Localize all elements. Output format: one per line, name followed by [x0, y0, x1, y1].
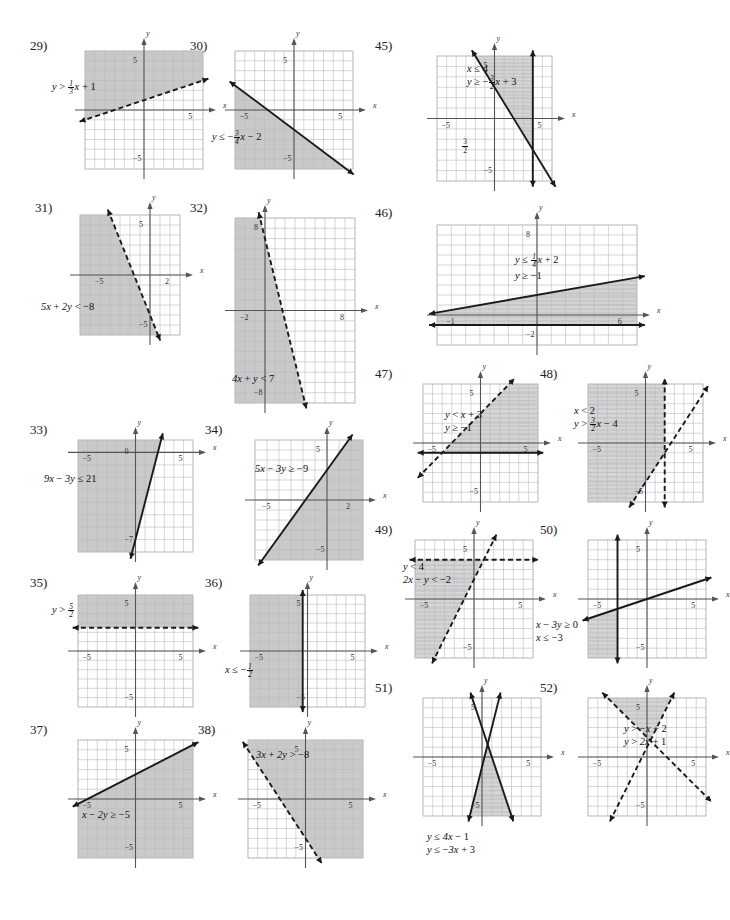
- y-axis-label: y: [138, 573, 142, 582]
- coordinate-plane: [572, 368, 719, 518]
- y-tick-label: 5: [470, 389, 474, 398]
- x-tick-label: 2: [165, 277, 169, 286]
- problem-32: 32)−288−8xy4x + y < 7: [190, 200, 360, 415]
- x-tick-label: −5: [442, 121, 451, 130]
- y-tick-label: 8: [526, 230, 530, 239]
- problem-33: 33)−550−7xy9x − 3y ≤ 21: [30, 422, 195, 567]
- problem-number: 45): [375, 38, 392, 54]
- x-tick-label: −5: [262, 502, 271, 511]
- inequality-label: y ≤ −34x − 2: [212, 130, 261, 146]
- coordinate-plane: [572, 682, 722, 832]
- y-tick-label: 5: [316, 445, 320, 454]
- problem-47: 47)−555−5xyy < x + 3y ≥ −1: [375, 366, 540, 516]
- problem-number: 33): [30, 422, 47, 438]
- problem-52: 52)−555−5xyy > −x + 2y > 2x + 1: [540, 680, 710, 865]
- y-tick-label: −5: [470, 487, 479, 496]
- inequality-label: x − 2y ≥ −5: [82, 808, 130, 821]
- y-tick-label: 5: [283, 56, 287, 65]
- problem-number: 46): [375, 205, 392, 221]
- coordinate-plane: [239, 424, 379, 576]
- problem-34: 34)−525−5xy5x − 3y ≥ −9: [205, 422, 370, 567]
- axis-fraction-label: 32: [462, 139, 469, 155]
- x-tick-label: 5: [537, 121, 541, 130]
- coordinate-plane: [64, 199, 196, 351]
- problem-30: 30)−555−5xyy ≤ −34x − 2: [190, 38, 360, 198]
- inequality-label: y < x + 3y ≥ −1: [445, 408, 482, 434]
- y-tick-label: 5: [463, 545, 467, 554]
- problem-number: 30): [190, 38, 207, 54]
- y-tick-label: −5: [635, 487, 644, 496]
- x-tick-label: −5: [83, 653, 92, 662]
- y-tick-label: 5: [471, 703, 475, 712]
- x-axis-label: x: [726, 590, 730, 599]
- x-tick-label: 5: [523, 445, 527, 454]
- inequality-label: 9x − 3y ≤ 21: [44, 472, 97, 485]
- inequality-label: x ≤ 4y ≥ −32x + 3: [467, 62, 516, 91]
- coordinate-plane: [572, 524, 722, 674]
- problem-50: 50)−555−5xyx − 3y ≥ 0x ≤ −3: [540, 522, 710, 672]
- x-tick-label: −5: [593, 601, 602, 610]
- y-tick-label: 0: [125, 447, 129, 456]
- y-tick-label: 5: [636, 703, 640, 712]
- problem-29: 29)55−5xyy > 13x + 1: [30, 38, 190, 193]
- problem-number: 35): [30, 575, 47, 591]
- problem-number: 37): [30, 722, 47, 738]
- y-tick-label: 5: [297, 599, 301, 608]
- coordinate-plane: [219, 35, 369, 185]
- x-tick-label: 5: [350, 653, 354, 662]
- y-tick-label: −5: [636, 643, 645, 652]
- problem-number: 31): [35, 200, 52, 216]
- inequality-label: y > 13x + 1: [52, 80, 96, 96]
- coordinate-plane: [62, 724, 209, 874]
- inequality-label: x − 3y ≥ 0x ≤ −3: [536, 618, 578, 644]
- inequality-label: x < 2y > 32x − 4: [574, 404, 618, 433]
- y-tick-label: −5: [133, 154, 142, 163]
- y-tick-label: 5: [133, 56, 137, 65]
- x-tick-label: 8: [340, 313, 344, 322]
- coordinate-plane: [234, 579, 381, 723]
- y-axis-label: y: [296, 29, 300, 38]
- x-tick-label: 5: [688, 445, 692, 454]
- inequality-label: y > 52: [52, 603, 75, 619]
- y-tick-label: −5: [125, 693, 134, 702]
- problem-49: 49)−555−5xyy < 42x − y < −2: [375, 522, 540, 672]
- inequality-label: 5x + 2y < −8: [41, 300, 94, 313]
- problem-51: 51)−555−5xyy ≤ 4x − 1y ≤ −3x + 3: [375, 680, 540, 865]
- y-tick-label: 8: [254, 223, 258, 232]
- y-tick-label: −8: [254, 388, 263, 397]
- problem-number: 32): [190, 200, 207, 216]
- y-tick-label: −5: [295, 843, 304, 852]
- x-tick-label: 5: [691, 759, 695, 768]
- y-axis-label: y: [483, 362, 487, 371]
- y-tick-label: −5: [636, 801, 645, 810]
- inequality-label: y > −x + 2y > 2x + 1: [624, 722, 667, 748]
- inequality-label: 5x − 3y ≥ −9: [255, 462, 308, 475]
- y-tick-label: 5: [125, 599, 129, 608]
- y-tick-label: −5: [316, 545, 325, 554]
- y-axis-label: y: [484, 676, 488, 685]
- y-axis-label: y: [310, 573, 314, 582]
- inequality-label: y ≤ 4x − 1y ≤ −3x + 3: [427, 830, 475, 856]
- x-tick-label: −5: [253, 801, 262, 810]
- y-tick-label: −5: [463, 643, 472, 652]
- problem-number: 50): [540, 522, 557, 538]
- y-tick-label: −5: [125, 843, 134, 852]
- x-tick-label: −5: [428, 759, 437, 768]
- problem-46: 46)−168−2xyy ≤ 14x + 2y ≥ −1: [375, 205, 705, 360]
- coordinate-plane: [421, 209, 653, 361]
- y-axis-label: y: [497, 34, 501, 43]
- y-axis-label: y: [649, 518, 653, 527]
- problem-45: 45)−555−532xyx ≤ 4y ≥ −32x + 3: [375, 38, 705, 213]
- y-axis-label: y: [138, 718, 142, 727]
- x-axis-label: x: [572, 110, 576, 119]
- x-tick-label: 5: [691, 601, 695, 610]
- x-tick-label: −5: [83, 454, 92, 463]
- y-tick-label: 5: [125, 745, 129, 754]
- inequality-label: 3x + 2y > −8: [256, 748, 309, 761]
- y-tick-label: −5: [297, 693, 306, 702]
- y-axis-label: y: [308, 718, 312, 727]
- problem-number: 47): [375, 366, 392, 382]
- x-axis-label: x: [726, 748, 730, 757]
- y-axis-label: y: [267, 196, 271, 205]
- x-tick-label: −5: [428, 445, 437, 454]
